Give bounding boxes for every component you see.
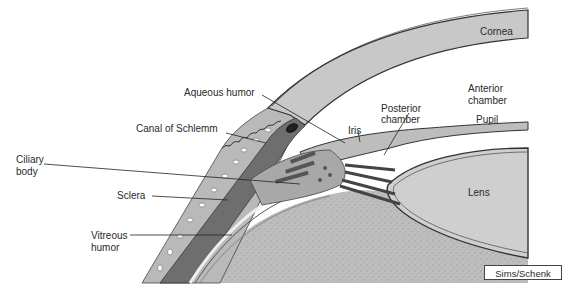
- label-aqueous-humor: Aqueous humor: [184, 87, 255, 98]
- label-canal-of-schlemm: Canal of Schlemm: [136, 123, 218, 134]
- label-posterior-chamber-line2: chamber: [381, 114, 420, 125]
- eye-illustration: [0, 0, 562, 298]
- label-sclera: Sclera: [117, 190, 145, 201]
- label-anterior-chamber-line2: chamber: [468, 95, 507, 106]
- label-vitreous-humor-line1: Vitreous: [91, 230, 128, 241]
- label-pupil: Pupil: [476, 114, 498, 125]
- label-posterior-chamber-line1: Posterior: [381, 103, 421, 114]
- credit-box: Sims/Schenk: [484, 265, 562, 280]
- label-cornea: Cornea: [480, 26, 513, 37]
- label-lens: Lens: [468, 187, 490, 198]
- label-iris: Iris: [348, 125, 361, 136]
- eye-anatomy-diagram: Cornea Aqueous humor Canal of Schlemm Ir…: [0, 0, 562, 298]
- label-ciliary-body-line2: body: [16, 166, 38, 177]
- label-anterior-chamber-line1: Anterior: [468, 83, 503, 94]
- label-ciliary-body-line1: Ciliary: [16, 154, 44, 165]
- label-vitreous-humor-line2: humor: [91, 242, 119, 253]
